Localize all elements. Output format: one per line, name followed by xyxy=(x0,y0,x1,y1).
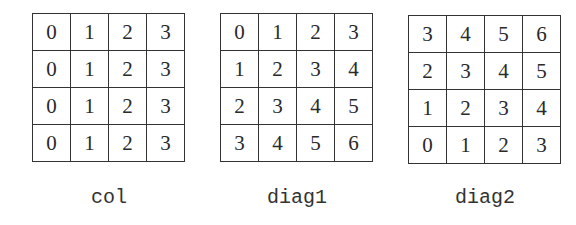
grid-cell: 2 xyxy=(109,14,147,51)
grid-cell: 1 xyxy=(259,14,297,51)
grid-cell: 3 xyxy=(147,125,185,162)
grid-cell: 3 xyxy=(147,14,185,51)
grid-label-col: col xyxy=(32,186,186,209)
grid-cell: 3 xyxy=(297,51,335,88)
grid-cell: 3 xyxy=(147,51,185,88)
grid-row: 3 4 5 6 xyxy=(409,16,561,53)
grid-label-diag1: diag1 xyxy=(220,186,374,209)
grid-panel-diag1: 0 1 2 3 1 2 3 4 2 3 4 5 3 4 5 6 xyxy=(220,13,373,162)
grid-cell: 0 xyxy=(33,88,71,125)
grid-cell: 1 xyxy=(71,88,109,125)
grid-cell: 3 xyxy=(147,88,185,125)
grid-cell: 5 xyxy=(297,125,335,162)
grid-cell: 4 xyxy=(335,51,373,88)
grid-row: 3 4 5 6 xyxy=(221,125,373,162)
grid-cell: 3 xyxy=(221,125,259,162)
grid-row: 0 1 2 3 xyxy=(33,125,185,162)
grid-cell: 0 xyxy=(409,127,447,164)
grid-cell: 2 xyxy=(409,53,447,90)
grid-cell: 3 xyxy=(259,88,297,125)
grid-panel-diag2: 3 4 5 6 2 3 4 5 1 2 3 4 0 1 2 3 xyxy=(408,15,561,164)
grid-cell: 4 xyxy=(447,16,485,53)
grid-cell: 4 xyxy=(297,88,335,125)
grid-row: 2 3 4 5 xyxy=(221,88,373,125)
grid-row: 1 2 3 4 xyxy=(221,51,373,88)
grid-cell: 3 xyxy=(335,14,373,51)
grid-diag1: 0 1 2 3 1 2 3 4 2 3 4 5 3 4 5 6 xyxy=(220,13,373,162)
grid-cell: 3 xyxy=(523,127,561,164)
grid-cell: 2 xyxy=(109,88,147,125)
grid-label-diag2: diag2 xyxy=(408,186,562,209)
grid-cell: 0 xyxy=(33,14,71,51)
grid-cell: 6 xyxy=(523,16,561,53)
grid-cell: 5 xyxy=(523,53,561,90)
grid-row: 1 2 3 4 xyxy=(409,90,561,127)
grid-cell: 1 xyxy=(71,14,109,51)
grid-cell: 2 xyxy=(259,51,297,88)
grid-cell: 4 xyxy=(523,90,561,127)
grid-cell: 0 xyxy=(221,14,259,51)
grid-row: 2 3 4 5 xyxy=(409,53,561,90)
grid-cell: 1 xyxy=(71,125,109,162)
grid-row: 0 1 2 3 xyxy=(33,88,185,125)
grid-cell: 2 xyxy=(109,125,147,162)
grid-diag2: 3 4 5 6 2 3 4 5 1 2 3 4 0 1 2 3 xyxy=(408,15,561,164)
grid-cell: 0 xyxy=(33,125,71,162)
grid-cell: 1 xyxy=(409,90,447,127)
grid-panel-col: 0 1 2 3 0 1 2 3 0 1 2 3 0 1 2 3 xyxy=(32,13,185,162)
grid-cell: 2 xyxy=(109,51,147,88)
grid-cell: 2 xyxy=(221,88,259,125)
grid-cell: 1 xyxy=(71,51,109,88)
grid-cell: 3 xyxy=(447,53,485,90)
grid-col: 0 1 2 3 0 1 2 3 0 1 2 3 0 1 2 3 xyxy=(32,13,185,162)
grid-cell: 5 xyxy=(335,88,373,125)
grid-cell: 1 xyxy=(447,127,485,164)
grid-cell: 2 xyxy=(447,90,485,127)
grid-cell: 6 xyxy=(335,125,373,162)
grid-row: 0 1 2 3 xyxy=(409,127,561,164)
grid-cell: 3 xyxy=(485,90,523,127)
grid-cell: 5 xyxy=(485,16,523,53)
grid-cell: 3 xyxy=(409,16,447,53)
grid-row: 0 1 2 3 xyxy=(33,14,185,51)
grid-cell: 2 xyxy=(485,127,523,164)
grid-cell: 4 xyxy=(485,53,523,90)
grid-cell: 2 xyxy=(297,14,335,51)
grid-row: 0 1 2 3 xyxy=(33,51,185,88)
grid-cell: 0 xyxy=(33,51,71,88)
grid-row: 0 1 2 3 xyxy=(221,14,373,51)
grid-cell: 4 xyxy=(259,125,297,162)
grid-cell: 1 xyxy=(221,51,259,88)
